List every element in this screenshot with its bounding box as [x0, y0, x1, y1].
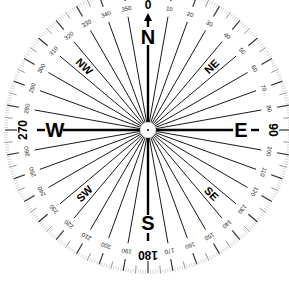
minor-tick	[21, 196, 25, 198]
minor-tick	[19, 191, 23, 193]
degree-label: 160	[184, 241, 196, 250]
minor-tick	[12, 176, 16, 177]
minor-tick	[50, 232, 53, 235]
minor-tick	[94, 260, 95, 264]
minor-tick	[277, 185, 281, 187]
minor-tick	[80, 3, 82, 7]
minor-tick	[285, 159, 289, 160]
minor-tick	[52, 234, 55, 237]
minor-tick	[32, 212, 35, 214]
degree-label: 20	[186, 10, 195, 18]
minor-tick	[41, 224, 44, 227]
minor-tick	[78, 4, 80, 7]
minor-tick	[111, 261, 113, 269]
minor-tick	[57, 239, 60, 242]
major-tick	[77, 243, 83, 253]
minor-tick	[273, 194, 277, 196]
minor-tick	[177, 267, 178, 271]
minor-tick	[214, 254, 216, 258]
minor-tick	[8, 164, 12, 165]
minor-tick	[121, 267, 122, 271]
minor-tick	[61, 15, 63, 18]
major-tick	[261, 59, 271, 65]
minor-tick	[26, 204, 29, 206]
minor-tick	[67, 246, 69, 249]
intercardinal-label-se: SE	[202, 184, 221, 203]
minor-tick	[242, 234, 245, 237]
minor-tick	[222, 249, 224, 252]
major-tick	[214, 6, 220, 16]
minor-tick	[285, 157, 289, 158]
minor-tick	[85, 1, 87, 5]
minor-tick	[203, 0, 205, 1]
minor-tick	[43, 32, 46, 35]
minor-tick	[260, 214, 263, 216]
minor-tick	[286, 107, 289, 108]
minor-tick	[283, 90, 287, 91]
minor-tick	[257, 39, 260, 42]
minor-tick	[36, 218, 39, 221]
minor-tick	[67, 11, 69, 14]
minor-tick	[7, 100, 11, 101]
minor-tick	[48, 231, 51, 234]
minor-tick	[212, 255, 214, 259]
minor-tick	[249, 227, 252, 230]
minor-tick	[222, 8, 224, 11]
minor-tick	[243, 232, 246, 235]
minor-tick	[214, 3, 216, 7]
minor-tick	[59, 240, 61, 243]
minor-tick	[10, 90, 14, 91]
minor-tick	[16, 71, 20, 73]
degree-label: 100	[265, 146, 273, 158]
center-hub	[140, 122, 156, 138]
minor-tick	[8, 161, 12, 162]
minor-tick	[72, 8, 74, 11]
minor-tick	[8, 98, 12, 99]
minor-tick	[279, 165, 287, 167]
minor-tick	[17, 69, 24, 72]
minor-tick	[284, 95, 288, 96]
minor-tick	[96, 261, 97, 265]
major-tick	[123, 259, 125, 271]
minor-tick	[70, 9, 72, 12]
minor-tick	[61, 242, 63, 245]
degree-label: 150	[203, 231, 215, 242]
minor-tick	[5, 117, 13, 118]
north-arrow-icon	[144, 13, 152, 27]
bearing-ray	[74, 42, 143, 124]
degree-label: 40	[223, 31, 232, 40]
minor-tick	[220, 7, 222, 10]
minor-tick	[240, 21, 243, 24]
minor-tick	[242, 23, 245, 26]
minor-tick	[6, 107, 10, 108]
minor-tick	[74, 7, 76, 10]
minor-tick	[240, 236, 243, 239]
minor-tick	[254, 222, 257, 225]
cardinal-label-e: E	[234, 119, 247, 141]
bearing-ray	[74, 136, 143, 218]
minor-tick	[6, 152, 10, 153]
minor-tick	[15, 74, 19, 76]
minor-tick	[125, 268, 126, 272]
minor-tick	[205, 0, 207, 2]
minor-tick	[10, 171, 14, 172]
minor-tick	[16, 187, 20, 189]
minor-tick	[220, 250, 222, 253]
degree-label: 60	[250, 64, 259, 73]
degree-label: 280	[23, 103, 31, 115]
major-tick	[56, 230, 64, 239]
minor-tick	[283, 117, 289, 118]
minor-tick	[287, 110, 289, 111]
minor-tick	[258, 216, 261, 218]
minor-tick	[160, 265, 161, 273]
minor-tick	[273, 65, 277, 67]
degree-label: 110	[259, 167, 268, 179]
intercardinal-label-ne: NE	[202, 57, 221, 76]
major-tick	[193, 0, 197, 7]
degree-label: 120	[249, 186, 260, 198]
bearing-label-270: 270	[16, 120, 30, 140]
hub-dot	[147, 129, 149, 131]
minor-tick	[83, 2, 85, 6]
compass-rose: 1020304050607080100110120130140150160170…	[0, 0, 289, 290]
minor-tick	[271, 187, 278, 190]
